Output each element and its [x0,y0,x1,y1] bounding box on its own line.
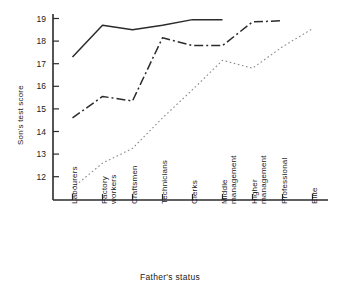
x-tick-label: Professional [280,158,289,204]
x-tick-label-line: Factory [100,176,109,204]
y-tick-label: 14 [28,127,46,137]
x-tick-label-line: Higher [250,179,259,204]
x-tick-label: Labourers [70,166,79,204]
x-tick-label-line: management [229,155,238,204]
y-tick-label: 17 [28,59,46,69]
series-line-middle-series [73,21,283,118]
x-tick-label: Craftsmen [130,165,139,204]
y-axis-ticks [53,19,59,177]
x-tick-label-line: Professional [280,158,289,204]
x-tick-label-line: Craftsmen [130,165,139,204]
y-tick-label: 12 [28,172,46,182]
line-chart-plot [0,0,340,289]
x-tick-label: Clerks [190,180,199,204]
series-line-upper-series [73,20,223,57]
y-tick-label: 15 [28,104,46,114]
data-series-group [73,20,313,188]
y-tick-label: 18 [28,36,46,46]
x-tick-label-line: Technicians [160,160,169,204]
x-tick-label: Technicians [160,160,169,204]
y-tick-label: 16 [28,81,46,91]
x-tick-label-line: Clerks [190,180,199,204]
x-tick-label: Highermanagement [250,155,268,204]
y-tick-label: 13 [28,149,46,159]
x-tick-label-line: Middle [220,179,229,204]
series-line-lower-series [73,29,313,188]
x-tick-label-line: Elite [310,187,319,204]
x-axis-title: Father's status [140,272,200,282]
x-tick-label-line: Labourers [70,166,79,204]
y-tick-label: 19 [28,14,46,24]
x-tick-label-line: workers [109,175,118,204]
x-tick-label: Middlemanagement [220,155,238,204]
x-tick-label-line: management [259,155,268,204]
x-tick-label: Elite [310,187,319,204]
x-tick-label: Factoryworkers [100,175,118,204]
y-axis-title: Son's test score [16,85,25,145]
chart-container: 1213141516171819 LabourersFactoryworkers… [0,0,340,289]
